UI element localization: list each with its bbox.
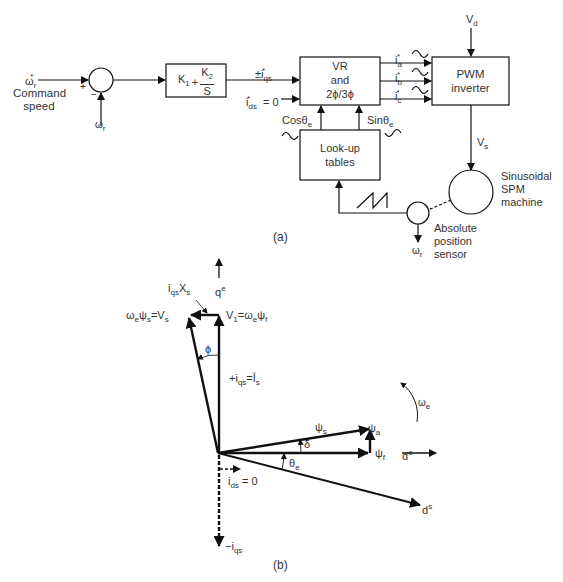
delta-arc xyxy=(300,440,301,453)
qe-axis-label: qe xyxy=(215,282,226,299)
phasor-diagram-b xyxy=(189,259,436,546)
position-sensor-circle xyxy=(407,202,429,224)
vs-label: Vs xyxy=(477,136,488,153)
psi-f-label: ψf xyxy=(375,447,385,464)
minus-sign: − xyxy=(91,88,97,101)
machine-label: SinusoidalSPMmachine xyxy=(501,170,552,209)
iqs-xs-label: iqsXs xyxy=(168,282,190,299)
ic-label: ic* xyxy=(395,86,405,107)
sine-wave-icon xyxy=(412,87,428,94)
phi-label: ϕ xyxy=(205,343,211,356)
plus-sign: + xyxy=(80,80,86,93)
sine-wave-icon xyxy=(412,51,428,58)
omega-e-label: ωe xyxy=(418,396,430,413)
delta-label: δ xyxy=(304,438,310,451)
spm-machine-circle xyxy=(449,170,493,214)
theta-e-label: θe xyxy=(289,457,300,474)
pwm-inverter-text: PWMinverter xyxy=(432,67,509,95)
ds-axis-label: ds xyxy=(422,500,432,517)
sine-wave-icon xyxy=(412,69,428,76)
caption-a: (a) xyxy=(273,231,288,244)
feedback-speed-label: ωr xyxy=(95,118,105,135)
vs-phasor-label: ωeψs=Vs xyxy=(126,309,169,326)
block-diagram-a xyxy=(38,28,509,242)
de-axis-label: de xyxy=(402,446,413,463)
ids-ref-label: ids* = 0 xyxy=(246,92,279,113)
v1-phasor-label: V1=ωeψf xyxy=(226,309,267,326)
sin-theta-label: Sinθe xyxy=(367,114,393,131)
cos-theta-label: Cosθe xyxy=(282,114,312,131)
caption-b: (b) xyxy=(273,559,288,572)
psi-s-label: ψs xyxy=(315,421,327,438)
sensor-label: Absolutepositionsensor xyxy=(434,222,477,261)
lookup-tables-text: Look-uptables xyxy=(300,141,380,169)
pi-controller-text: K1 + K2 S xyxy=(166,66,226,97)
sensor-omega-label: ωr xyxy=(412,244,422,261)
iqs-positive-label: +iqs=Îs xyxy=(229,372,260,389)
cos-wave-icon xyxy=(282,133,298,140)
theta-e-arc xyxy=(282,454,284,469)
vd-label: Vd xyxy=(466,13,478,30)
vs-phasor xyxy=(189,318,218,453)
shaft-coupling-dashed xyxy=(428,200,451,210)
rotation-arc xyxy=(401,383,418,422)
iqs-ref-label: ±iqs* xyxy=(255,64,275,85)
psi-s-phasor xyxy=(218,429,369,453)
ids-zero-label: ids = 0 xyxy=(228,475,258,492)
iqs-negative-label: −iqs xyxy=(225,540,242,557)
psi-a-label: ψa xyxy=(368,422,380,439)
command-speed-label: Commandspeed xyxy=(13,87,65,113)
sawtooth-icon xyxy=(357,193,387,208)
vr-block-text: VRand2ϕ/3ϕ xyxy=(300,59,380,101)
iqs-xs-pointer xyxy=(196,300,207,313)
